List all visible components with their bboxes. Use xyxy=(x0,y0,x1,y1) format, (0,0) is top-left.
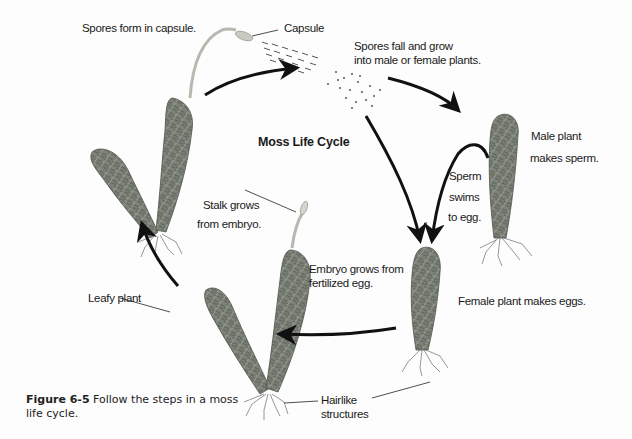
label-embryo-line1: Embryo grows from xyxy=(309,262,404,277)
arrow-to-male-plant xyxy=(388,78,458,110)
label-leafy-plant: Leafy plant xyxy=(88,291,141,306)
label-male-plant-line1: Male plant xyxy=(531,129,581,144)
label-female-plant: Female plant makes eggs. xyxy=(458,294,586,309)
label-sperm-line1: Sperm xyxy=(449,169,481,184)
label-sperm-line2: swims xyxy=(449,190,479,205)
figure-caption: Figure 6-5 Follow the steps in a moss li… xyxy=(26,393,256,421)
diagram-artwork xyxy=(0,0,632,439)
label-capsule: Capsule xyxy=(284,21,324,36)
spore-dots xyxy=(327,71,381,109)
label-spores-fall-line2: into male or female plants. xyxy=(354,53,481,68)
label-sperm-line3: to egg. xyxy=(448,210,481,225)
figure-number: Figure 6-5 xyxy=(26,393,90,406)
label-embryo-line2: fertilized egg. xyxy=(309,276,373,291)
label-spores-fall-line1: Spores fall and grow xyxy=(354,39,453,54)
leafy-moss-plant-illustration xyxy=(205,200,311,420)
label-hairlike-line2: structures xyxy=(321,407,369,422)
arrow-spores-to-female xyxy=(366,116,420,240)
arrow-to-spores xyxy=(205,68,296,95)
male-moss-plant-illustration xyxy=(480,114,532,266)
label-hairlike-line1: Hairlike xyxy=(321,393,357,408)
label-spores-form: Spores form in capsule. xyxy=(82,21,196,36)
diagram-title: Moss Life Cycle xyxy=(258,135,349,149)
label-stalk-line1: Stalk grows xyxy=(203,198,259,213)
label-stalk-line2: from embryo. xyxy=(197,217,261,232)
moss-life-cycle-diagram: Moss Life Cycle Spores form in capsule. … xyxy=(0,0,632,439)
label-male-plant-line2: makes sperm. xyxy=(530,151,599,166)
female-moss-plant-illustration xyxy=(402,247,448,376)
